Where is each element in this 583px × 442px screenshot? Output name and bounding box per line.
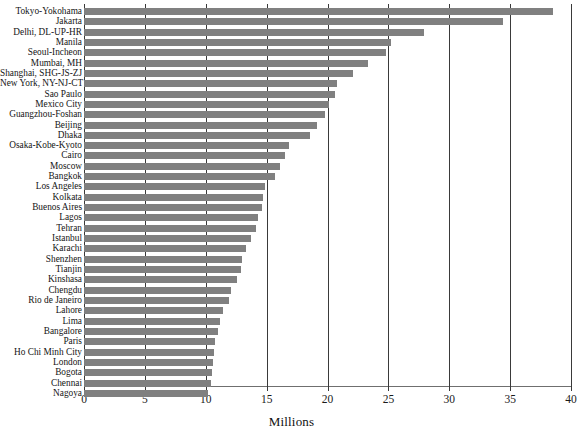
bar bbox=[84, 111, 325, 118]
bar bbox=[84, 183, 265, 190]
x-axis-tick bbox=[449, 386, 450, 391]
x-axis-tick bbox=[510, 386, 511, 391]
bar bbox=[84, 390, 208, 397]
bar bbox=[84, 194, 263, 201]
bar bbox=[84, 29, 424, 36]
bar bbox=[84, 245, 246, 252]
bar bbox=[84, 173, 275, 180]
x-axis-tick bbox=[267, 386, 268, 391]
bar bbox=[84, 39, 391, 46]
bar bbox=[84, 18, 503, 25]
bar bbox=[84, 297, 229, 304]
bar bbox=[84, 369, 212, 376]
bar bbox=[84, 276, 237, 283]
bar bbox=[84, 142, 289, 149]
bar bbox=[84, 60, 368, 67]
x-axis-tick-label: 20 bbox=[322, 392, 334, 406]
bar-chart: Millions 0510152025303540Tokyo-YokohamaJ… bbox=[0, 0, 583, 442]
x-axis-tick-label: 25 bbox=[383, 392, 395, 406]
bar bbox=[84, 256, 242, 263]
bar bbox=[84, 380, 211, 387]
bar bbox=[84, 152, 285, 159]
x-axis-tick bbox=[328, 386, 329, 391]
bar bbox=[84, 266, 241, 273]
bar bbox=[84, 338, 215, 345]
gridline bbox=[510, 4, 511, 386]
bar bbox=[84, 163, 280, 170]
bar bbox=[84, 49, 386, 56]
bar bbox=[84, 80, 337, 87]
bar bbox=[84, 235, 251, 242]
bar bbox=[84, 328, 218, 335]
bar bbox=[84, 225, 256, 232]
x-axis-tick-label: 35 bbox=[504, 392, 516, 406]
gridline bbox=[388, 4, 389, 386]
bar bbox=[84, 359, 213, 366]
bar bbox=[84, 8, 553, 15]
x-axis-tick-label: 40 bbox=[565, 392, 577, 406]
bar bbox=[84, 132, 310, 139]
category-label: Nagoya bbox=[0, 388, 84, 399]
bar bbox=[84, 349, 214, 356]
bar bbox=[84, 204, 262, 211]
bar bbox=[84, 214, 258, 221]
gridline bbox=[571, 4, 572, 386]
x-axis-tick-label: 15 bbox=[261, 392, 273, 406]
gridline bbox=[449, 4, 450, 386]
bar bbox=[84, 287, 231, 294]
bar bbox=[84, 101, 329, 108]
bar bbox=[84, 122, 317, 129]
bar bbox=[84, 70, 353, 77]
x-axis-title: Millions bbox=[0, 414, 583, 430]
bar bbox=[84, 91, 335, 98]
bar bbox=[84, 318, 220, 325]
bar bbox=[84, 307, 223, 314]
x-axis-tick bbox=[571, 386, 572, 391]
x-axis-tick-label: 30 bbox=[444, 392, 456, 406]
x-axis-tick bbox=[388, 386, 389, 391]
